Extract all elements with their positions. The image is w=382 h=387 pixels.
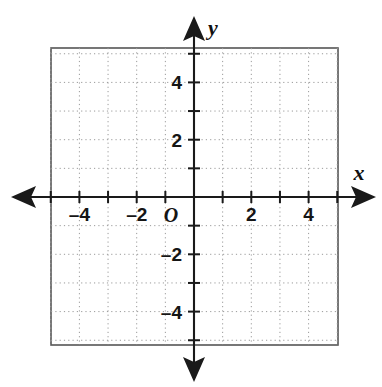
y-tick-label: 2 bbox=[171, 130, 182, 151]
x-tick-label: –4 bbox=[69, 204, 91, 225]
coordinate-graph: –4–224 42–2–4 O x y bbox=[0, 0, 382, 387]
x-axis-name-label: x bbox=[353, 160, 365, 185]
x-tick-label: 4 bbox=[303, 204, 314, 225]
x-tick-label: –2 bbox=[126, 204, 147, 225]
y-tick-label: –2 bbox=[161, 244, 182, 265]
y-tick-label: –4 bbox=[161, 302, 183, 323]
x-tick-label: 2 bbox=[246, 204, 257, 225]
y-tick-label: 4 bbox=[171, 72, 182, 93]
graph-svg: –4–224 42–2–4 O x y bbox=[0, 0, 382, 387]
canvas-background bbox=[0, 0, 382, 387]
origin-label: O bbox=[164, 204, 178, 226]
